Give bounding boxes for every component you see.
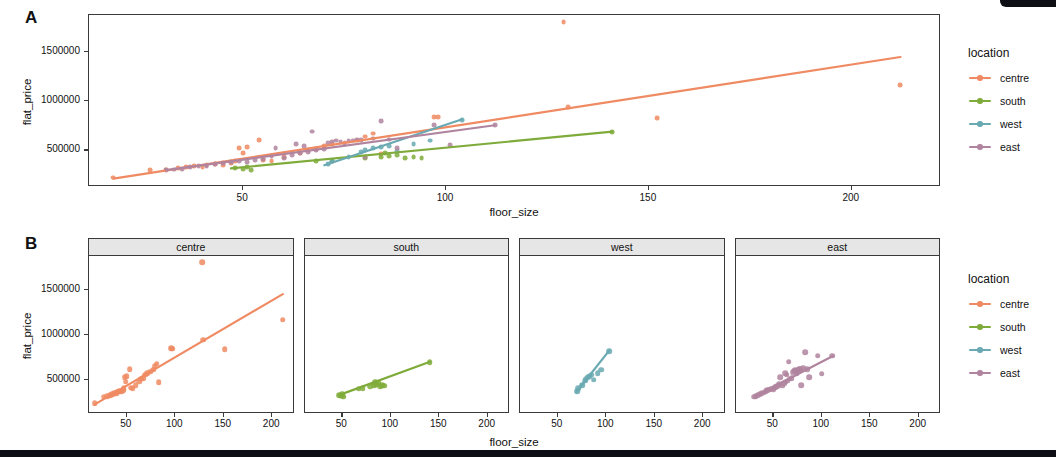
panel-b-legend-label: east xyxy=(1000,367,1020,379)
facet-x-tick-mark xyxy=(174,413,175,417)
facet-x-tick-mark xyxy=(918,413,919,417)
panel-b-y-tick: 500000 xyxy=(10,373,80,384)
scan-edge-bottom xyxy=(0,450,1056,457)
panel-a-legend-swatch-east xyxy=(968,140,992,154)
facet-strip-label: west xyxy=(611,241,633,253)
panel-a-x-tick-mark xyxy=(445,186,446,190)
panel-a-y-tick: 1000000 xyxy=(10,94,80,105)
panel-a-legend: location centresouthwesteast xyxy=(968,46,1029,161)
facet-x-tick-mark xyxy=(223,413,224,417)
panel-b-legend-label: centre xyxy=(1000,298,1029,310)
facet-x-tick-mark xyxy=(438,413,439,417)
facet-x-tick: 200 xyxy=(467,418,507,429)
fit-line-south xyxy=(231,132,612,169)
facet-x-tick-mark xyxy=(605,413,606,417)
facet-x-tick: 150 xyxy=(418,418,458,429)
panel-b-legend-label: south xyxy=(1000,321,1026,333)
facet-strip-label: centre xyxy=(176,241,205,253)
panel-b-legend-title: location xyxy=(968,272,1029,286)
scan-edge-top-right xyxy=(1000,0,1056,7)
facet-x-tick-mark xyxy=(126,413,127,417)
panel-b-y-tick: 1000000 xyxy=(10,328,80,339)
facet-x-tick: 200 xyxy=(898,418,938,429)
panel-b-legend-item-centre[interactable]: centre xyxy=(968,295,1029,313)
panel-b-y-tick: 1500000 xyxy=(10,283,80,294)
facet-x-tick: 50 xyxy=(537,418,577,429)
facet-strip-south: south xyxy=(304,238,510,256)
facet-x-tick: 50 xyxy=(752,418,792,429)
panel-a-legend-swatch-south xyxy=(968,94,992,108)
panel-a-x-axis-label: floor_size xyxy=(414,206,614,218)
panel-a-x-tick: 150 xyxy=(623,192,673,203)
facet-x-tick: 200 xyxy=(682,418,722,429)
regression-lines xyxy=(89,15,939,185)
fit-line-west xyxy=(576,351,609,393)
panel-b-legend-item-east[interactable]: east xyxy=(968,364,1029,382)
panel-a-plot-area xyxy=(88,14,940,186)
panel-a-x-tick: 50 xyxy=(217,192,267,203)
panel-a-x-tick-mark xyxy=(242,186,243,190)
panel-a-legend-label: centre xyxy=(1000,72,1029,84)
panel-a-legend-swatch-centre xyxy=(968,71,992,85)
facet-x-tick: 50 xyxy=(321,418,361,429)
panel-a-x-tick-mark xyxy=(851,186,852,190)
facet-x-tick-mark xyxy=(341,413,342,417)
facet-x-tick: 100 xyxy=(154,418,194,429)
regression-lines xyxy=(305,256,509,412)
facet-strip-west: west xyxy=(519,238,725,256)
facet-panel-east xyxy=(735,255,941,413)
facet-panel-west xyxy=(519,255,725,413)
panel-a-legend-label: south xyxy=(1000,95,1026,107)
panel-a-y-tick: 500000 xyxy=(10,143,80,154)
panel-b-legend-swatch-east xyxy=(968,366,992,380)
figure-root: A flat_price 50000010000001500000 501001… xyxy=(0,0,1056,457)
facet-x-tick-mark xyxy=(487,413,488,417)
panel-b-legend: location centresouthwesteast xyxy=(968,272,1029,387)
fit-line-east xyxy=(754,356,832,397)
facet-x-tick-mark xyxy=(869,413,870,417)
panel-a-legend-item-centre[interactable]: centre xyxy=(968,69,1029,87)
fit-line-centre xyxy=(95,294,283,404)
panel-a-x-tick-mark xyxy=(648,186,649,190)
facet-x-tick-mark xyxy=(654,413,655,417)
facet-x-tick: 100 xyxy=(585,418,625,429)
panel-a-legend-title: location xyxy=(968,46,1029,60)
panel-a-legend-swatch-west xyxy=(968,117,992,131)
facet-strip-label: south xyxy=(393,241,419,253)
facet-x-tick: 50 xyxy=(106,418,146,429)
panel-a-x-tick: 100 xyxy=(420,192,470,203)
facet-x-tick-mark xyxy=(702,413,703,417)
regression-lines xyxy=(736,256,940,412)
facet-x-tick: 150 xyxy=(634,418,674,429)
facet-strip-label: east xyxy=(827,241,847,253)
facet-strip-east: east xyxy=(735,238,941,256)
facet-x-tick: 100 xyxy=(801,418,841,429)
facet-x-tick: 200 xyxy=(251,418,291,429)
panel-a-letter: A xyxy=(25,8,38,28)
facet-x-tick-mark xyxy=(390,413,391,417)
facet-strip-centre: centre xyxy=(88,238,294,256)
facet-x-tick: 100 xyxy=(370,418,410,429)
facet-x-tick-mark xyxy=(821,413,822,417)
panel-b-legend-item-west[interactable]: west xyxy=(968,341,1029,359)
facet-panel-south xyxy=(304,255,510,413)
fit-line-south xyxy=(338,362,429,395)
facet-x-tick-mark xyxy=(271,413,272,417)
panel-a-legend-item-west[interactable]: west xyxy=(968,115,1029,133)
facet-panel-centre xyxy=(88,255,294,413)
regression-lines xyxy=(89,256,293,412)
facet-x-tick: 150 xyxy=(849,418,889,429)
panel-b-legend-swatch-south xyxy=(968,320,992,334)
panel-a-legend-item-south[interactable]: south xyxy=(968,92,1029,110)
panel-a-x-tick: 200 xyxy=(826,192,876,203)
panel-a-legend-item-east[interactable]: east xyxy=(968,138,1029,156)
panel-a-legend-label: east xyxy=(1000,141,1020,153)
facet-x-tick: 150 xyxy=(203,418,243,429)
facet-x-tick-mark xyxy=(772,413,773,417)
facet-x-tick-mark xyxy=(557,413,558,417)
panel-b-legend-label: west xyxy=(1000,344,1022,356)
regression-lines xyxy=(520,256,724,412)
panel-a-legend-label: west xyxy=(1000,118,1022,130)
panel-b-legend-item-south[interactable]: south xyxy=(968,318,1029,336)
panel-b-x-axis-label: floor_size xyxy=(414,436,614,448)
